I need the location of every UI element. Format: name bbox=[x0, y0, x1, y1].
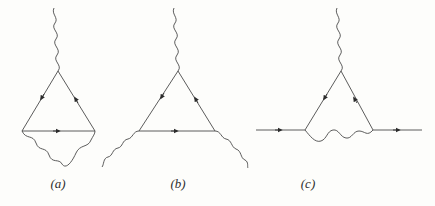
fermion-arrow-a-left bbox=[41, 94, 44, 99]
photon-line-c-loop bbox=[305, 130, 373, 141]
photon-line-a-top bbox=[53, 8, 59, 71]
fermion-line-a-left bbox=[22, 71, 58, 131]
diagram-c bbox=[256, 8, 422, 141]
fermion-arrow-a-right bbox=[75, 98, 78, 103]
photon-line-b-lower-left bbox=[102, 131, 139, 167]
fermion-line-c-left bbox=[305, 71, 341, 130]
photon-line-b-lower-right bbox=[215, 131, 248, 168]
fermion-line-b-left bbox=[139, 71, 178, 131]
diagram-label-a: (a) bbox=[38, 176, 78, 192]
fermion-arrow-c-left bbox=[324, 94, 327, 99]
photon-line-c-top bbox=[336, 8, 342, 71]
diagram-label-c: (c) bbox=[288, 176, 328, 192]
diagram-b bbox=[102, 8, 248, 168]
fermion-arrow-b-left bbox=[161, 93, 164, 98]
photon-line-b-top bbox=[173, 8, 179, 71]
diagram-a bbox=[22, 8, 95, 166]
fermion-line-c-right bbox=[341, 71, 373, 130]
diagram-label-b: (b) bbox=[158, 176, 198, 192]
fermion-arrow-b-right bbox=[195, 98, 198, 103]
feynman-diagram-figure: (a) (b) (c) bbox=[0, 0, 435, 206]
photon-line-a-loop bbox=[22, 131, 95, 166]
